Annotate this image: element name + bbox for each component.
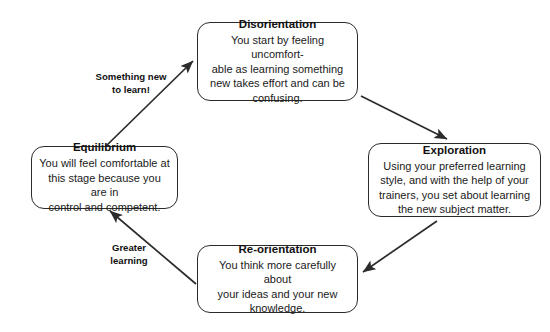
node-equilibrium-body: You will feel comfortable at this stage …	[39, 156, 170, 214]
node-reorientation-title: Re-orientation	[239, 242, 317, 257]
arrow-exploration-to-reorientation	[363, 221, 437, 272]
arrow-disorientation-to-exploration	[361, 96, 447, 139]
node-equilibrium[interactable]: Equilibrium You will feel comfortable at…	[31, 146, 178, 209]
node-reorientation-body: You think more carefully about your idea…	[205, 258, 350, 316]
node-equilibrium-title: Equilibrium	[73, 140, 136, 155]
node-disorientation-body: You start by feeling uncomfort- able as …	[205, 33, 350, 106]
edge-label-greater-learning: Greater learning	[88, 241, 170, 267]
node-exploration[interactable]: Exploration Using your preferred learnin…	[368, 143, 541, 217]
node-disorientation[interactable]: Disorientation You start by feeling unco…	[197, 22, 358, 101]
node-exploration-title: Exploration	[423, 143, 486, 158]
node-reorientation[interactable]: Re-orientation You think more carefully …	[197, 245, 358, 313]
node-exploration-body: Using your preferred learning style, and…	[379, 159, 530, 217]
node-disorientation-title: Disorientation	[239, 17, 316, 32]
learning-cycle-diagram: Disorientation You start by feeling unco…	[0, 0, 550, 332]
edge-label-something-new-to-learn: Something new to learn!	[76, 70, 186, 96]
